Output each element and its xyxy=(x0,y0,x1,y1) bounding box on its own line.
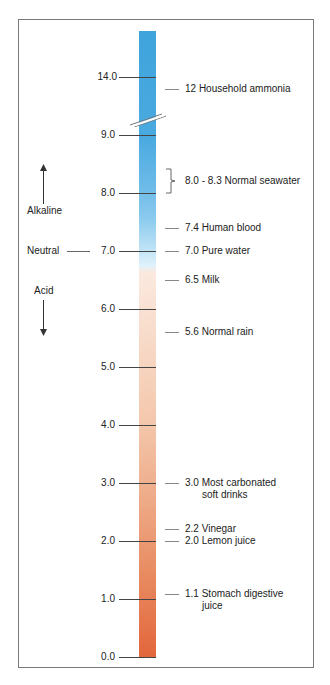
sample-human-blood: 7.4 Human blood xyxy=(185,222,261,234)
arrow-down-icon xyxy=(40,329,47,336)
tick-label-2: 2.0 xyxy=(75,535,115,547)
leader-blood xyxy=(165,228,179,229)
leader-milk xyxy=(165,280,179,281)
tick-1 xyxy=(119,599,156,600)
leader-lemon xyxy=(165,541,179,542)
leader-stomach xyxy=(165,594,179,595)
sample-household-ammonia: 12 Household ammonia xyxy=(185,83,291,95)
tick-label-14: 14.0 xyxy=(77,71,117,83)
acid-arrow-line xyxy=(43,300,44,330)
arrow-up-icon xyxy=(40,164,47,171)
leader-rain xyxy=(165,332,179,333)
sample-stomach-line1: 1.1 Stomach digestive xyxy=(185,588,283,599)
sample-stomach-line2: juice xyxy=(185,600,283,612)
alkaline-label: Alkaline xyxy=(27,205,62,217)
alkaline-arrow-line xyxy=(43,168,44,204)
tick-label-6: 6.0 xyxy=(75,303,115,315)
leader-soft-drinks xyxy=(165,483,179,484)
tick-9 xyxy=(119,135,156,136)
tick-label-9: 9.0 xyxy=(75,129,115,141)
tick-8 xyxy=(119,193,156,194)
tick-14 xyxy=(119,77,156,78)
sample-milk: 6.5 Milk xyxy=(185,274,219,286)
tick-6 xyxy=(119,309,156,310)
neutral-label: Neutral xyxy=(27,245,59,257)
leader-vinegar xyxy=(165,529,179,530)
tick-3 xyxy=(119,483,156,484)
sample-stomach-juice: 1.1 Stomach digestive juice xyxy=(185,588,283,612)
tick-2 xyxy=(119,541,156,542)
sample-normal-seawater: 8.0 - 8.3 Normal seawater xyxy=(185,175,300,187)
tick-0 xyxy=(119,657,156,658)
tick-label-3: 3.0 xyxy=(75,477,115,489)
sample-soft-drinks-line2: soft drinks xyxy=(185,489,276,501)
sample-soft-drinks-line1: 3.0 Most carbonated xyxy=(185,477,276,488)
tick-label-5: 5.0 xyxy=(75,361,115,373)
tick-5 xyxy=(119,367,156,368)
neutral-leader xyxy=(67,251,90,252)
seawater-bracket-icon xyxy=(166,168,176,194)
tick-label-1: 1.0 xyxy=(75,593,115,605)
axis-break-icon xyxy=(128,113,168,127)
tick-label-0: 0.0 xyxy=(75,651,115,663)
sample-lemon-juice: 2.0 Lemon juice xyxy=(185,535,256,547)
sample-soft-drinks: 3.0 Most carbonated soft drinks xyxy=(185,477,276,501)
tick-7 xyxy=(119,251,156,252)
leader-water xyxy=(165,251,179,252)
tick-label-4: 4.0 xyxy=(75,419,115,431)
acid-label: Acid xyxy=(34,285,53,297)
tick-label-8: 8.0 xyxy=(75,187,115,199)
sample-vinegar: 2.2 Vinegar xyxy=(185,523,236,535)
sample-pure-water: 7.0 Pure water xyxy=(185,245,250,257)
leader-ammonia xyxy=(165,89,179,90)
sample-normal-rain: 5.6 Normal rain xyxy=(185,326,253,338)
tick-4 xyxy=(119,425,156,426)
